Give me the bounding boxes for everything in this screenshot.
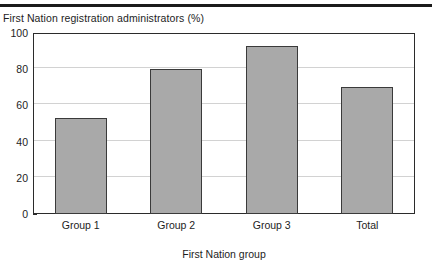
y-tick-label: 60 [16,99,28,112]
bar [55,118,107,214]
bar [341,87,393,214]
y-tick-label: 20 [16,172,28,185]
top-divider-rule [0,4,432,7]
x-tick-label: Group 3 [224,219,320,231]
x-tick-label: Group 2 [129,219,225,231]
x-tick-label: Group 1 [33,219,129,231]
y-axis: 020406080100 [0,26,31,221]
y-tick-label: 100 [10,27,28,40]
x-tick-label: Total [320,219,416,231]
x-axis-tick-labels: Group 1Group 2Group 3Total [33,219,415,235]
bar [150,69,202,214]
y-tick-mark [33,214,37,215]
bar [246,46,298,214]
bar-series [33,33,415,214]
chart-title: First Nation registration administrators… [3,12,204,24]
y-tick-label: 0 [22,208,28,221]
y-tick-label: 40 [16,136,28,149]
x-axis-title: First Nation group [33,248,415,260]
y-tick-label: 80 [16,63,28,76]
